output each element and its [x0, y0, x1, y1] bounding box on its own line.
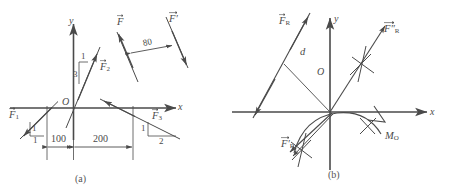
force-label-f-prime: F′ — [169, 14, 178, 25]
force-label-f: F — [117, 17, 123, 28]
dimension-label-200: 200 — [93, 134, 108, 144]
force-label-fr-prime: F′R — [281, 139, 294, 150]
panel-b — [232, 13, 427, 170]
force-label-f3: F3 — [152, 111, 162, 122]
force-line-fr-dprime — [330, 26, 385, 112]
slope-run-label-f3: 2 — [159, 137, 164, 146]
couple-dimension-arrow — [131, 46, 172, 54]
moment-arrowhead-mo — [368, 106, 385, 122]
force-label-fr-prime-mark: ′ — [287, 138, 289, 149]
x-axis-label-a: x — [178, 102, 182, 112]
slope-rise-label-f2: 1 — [81, 52, 86, 61]
force-arrow-fr-down — [255, 79, 275, 115]
origin-label-b: O — [317, 67, 324, 77]
force-label-fr-prime-sub: R — [290, 142, 295, 150]
x-axis-label-b: x — [430, 107, 434, 117]
force-arrow-fr-up — [290, 17, 308, 50]
force-line-fr-prime-2 — [293, 114, 333, 156]
force-label-fr: FR — [279, 16, 290, 27]
slope-triangle-f2 — [79, 62, 88, 84]
moment-arc-mo — [294, 113, 381, 153]
force-label-f2-sub: 2 — [106, 65, 110, 73]
dimension-label-100: 100 — [51, 134, 66, 144]
force-label-fr-dprime: F″R — [384, 24, 399, 35]
force-label-f-prime-mark: ′ — [175, 13, 177, 24]
force-label-f1: F1 — [9, 110, 19, 121]
force-label-fr-base: F — [279, 15, 285, 26]
slash-mark-c-fr-dprime — [358, 46, 366, 82]
figure-container: x y O F1 F2 F3 F F′ 80 100 200 1 1 1 3 1… — [0, 0, 450, 196]
panel-caption-a: (a) — [75, 174, 86, 184]
origin-label-a: O — [62, 97, 69, 107]
panel-caption-b: (b) — [328, 170, 340, 180]
force-label-f2: F2 — [100, 62, 110, 73]
y-axis-label-a: y — [69, 16, 73, 26]
couple-arrow-fprime — [172, 31, 187, 65]
slope-rise-label-f3: 1 — [141, 124, 146, 133]
force-label-f1-base: F — [9, 109, 15, 120]
force-arrow-f1 — [24, 108, 53, 137]
couple-arrow-f — [119, 34, 134, 68]
moment-label-base: M — [385, 130, 394, 141]
force-label-fr-dprime-sub: R — [395, 27, 400, 35]
slope-run-label-f2: 3 — [73, 70, 78, 79]
force-label-fr-sub: R — [285, 19, 290, 27]
force-label-f3-base: F — [152, 110, 158, 121]
force-label-f2-base: F — [100, 61, 106, 72]
couple-distance-label: 80 — [142, 37, 153, 48]
slope-run-label-f1: 1 — [33, 136, 38, 145]
slope-rise-label-f1: 1 — [32, 124, 37, 133]
slope-triangle-f3 — [148, 122, 176, 136]
force-label-fr-dprime-mark: ″ — [390, 23, 394, 34]
force-label-f1-sub: 1 — [15, 113, 19, 121]
y-axis-label-b: y — [334, 14, 338, 24]
moment-label-sub: O — [394, 134, 399, 142]
distance-label-d: d — [300, 47, 305, 58]
force-label-f-base: F — [117, 16, 123, 27]
force-label-f3-sub: 3 — [158, 114, 162, 122]
moment-label-mo: MO — [385, 131, 399, 142]
